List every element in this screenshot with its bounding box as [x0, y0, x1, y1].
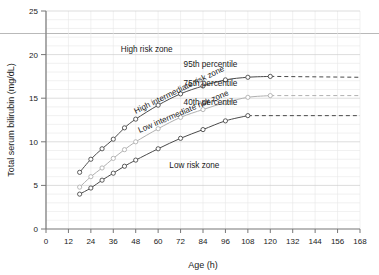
y-tick-label: 20 [29, 51, 38, 60]
x-tick-label: 156 [331, 237, 345, 246]
y-tick-label: 10 [29, 138, 38, 147]
y-axis-title: Total serum bilirubin (mg/dL) [6, 63, 16, 177]
data-point-marker [100, 166, 104, 170]
x-tick-label: 12 [64, 237, 73, 246]
x-tick-label: 120 [264, 237, 278, 246]
x-axis-title: Age (h) [188, 260, 218, 270]
data-point-marker [246, 114, 250, 118]
data-point-marker [246, 95, 250, 99]
data-point-marker [78, 185, 82, 189]
data-point-marker [134, 158, 138, 162]
x-tick-label: 84 [199, 237, 208, 246]
data-point-marker [223, 119, 227, 123]
data-point-marker [201, 127, 205, 131]
x-tick-label: 132 [286, 237, 300, 246]
x-axis-tick-labels: 01224364860728496108120132144156168 [44, 237, 367, 246]
y-axis-ticks [41, 11, 46, 229]
bhutani-nomogram-chart: 0510152025 01224364860728496108120132144… [0, 0, 379, 275]
x-axis-ticks [46, 229, 360, 233]
chart-stage: 0510152025 01224364860728496108120132144… [0, 0, 379, 275]
percentile-label-75th: 75th percentile [184, 79, 238, 88]
x-tick-label: 72 [176, 237, 185, 246]
data-point-marker [122, 126, 126, 130]
data-point-marker [111, 137, 115, 141]
series-40th-percentile [78, 114, 360, 197]
low-intermediate-risk-zone-label: Low intermediate risk zone [137, 88, 231, 135]
series-75th-percentile [78, 93, 360, 189]
minor-gridlines [46, 11, 360, 229]
x-tick-label: 60 [154, 237, 163, 246]
data-point-marker [122, 164, 126, 168]
x-tick-label: 36 [109, 237, 118, 246]
percentile-label-95th: 95th percentile [184, 60, 238, 69]
x-tick-label: 144 [308, 237, 322, 246]
x-tick-label: 0 [44, 237, 49, 246]
data-point-marker [111, 171, 115, 175]
y-tick-label: 0 [34, 225, 39, 234]
data-point-marker [134, 140, 138, 144]
x-tick-label: 48 [131, 237, 140, 246]
data-point-marker [89, 186, 93, 190]
data-point-marker [78, 192, 82, 196]
data-point-marker [89, 157, 93, 161]
x-tick-label: 96 [221, 237, 230, 246]
x-tick-label: 108 [241, 237, 255, 246]
data-point-marker [122, 148, 126, 152]
y-tick-label: 15 [29, 94, 38, 103]
percentile-label-40th: 40th percentile [184, 98, 238, 107]
data-point-marker [156, 147, 160, 151]
x-tick-label: 24 [86, 237, 95, 246]
data-point-marker [246, 75, 250, 79]
high-risk-zone-label: High risk zone [121, 45, 173, 54]
data-point-marker [111, 156, 115, 160]
data-point-marker [78, 170, 82, 174]
y-axis-tick-labels: 0510152025 [29, 7, 38, 234]
data-point-marker [268, 74, 272, 78]
percentile-labels: 95th percentile75th percentile40th perce… [184, 60, 238, 107]
data-point-marker [100, 147, 104, 151]
low-risk-zone-label: Low risk zone [169, 161, 220, 170]
data-point-marker [134, 117, 138, 121]
data-point-marker [268, 93, 272, 97]
y-tick-label: 25 [29, 7, 38, 16]
data-point-marker [89, 175, 93, 179]
y-tick-label: 5 [34, 181, 39, 190]
data-point-marker [100, 178, 104, 182]
data-point-marker [178, 136, 182, 140]
x-tick-label: 168 [353, 237, 367, 246]
